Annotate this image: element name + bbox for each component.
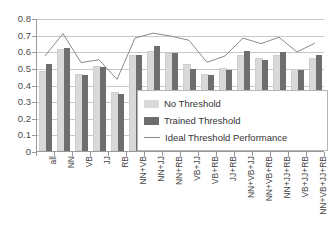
x-axis-tick-mark bbox=[36, 152, 37, 156]
x-axis-tick-label: JJ+RB bbox=[229, 156, 238, 181]
legend-item: No Threshold bbox=[144, 95, 321, 112]
x-axis-tick-label: NN+JJ+RB bbox=[283, 156, 292, 199]
legend-swatch-icon bbox=[144, 100, 159, 108]
legend-item: Trained Threshold bbox=[144, 112, 321, 129]
y-axis-tick-label: 0.6 bbox=[2, 47, 31, 57]
ideal-threshold-polyline bbox=[45, 33, 315, 79]
legend-item-label: No Threshold bbox=[164, 99, 221, 109]
x-axis-tick-label: NN bbox=[67, 156, 76, 168]
x-axis-tick-label: VB bbox=[85, 156, 94, 167]
x-axis-tick-label: NN+JJ bbox=[157, 156, 166, 182]
legend-swatch-icon bbox=[144, 117, 159, 125]
legend: No ThresholdTrained ThresholdIdeal Thres… bbox=[137, 90, 328, 151]
x-axis-tick-label: NN+VB+RB bbox=[265, 156, 274, 201]
x-axis-tick-label: NN+VB+JJ bbox=[247, 156, 256, 198]
y-axis-tick-label: 0.1 bbox=[2, 130, 31, 140]
x-axis-tick-label: NN+VB bbox=[139, 156, 148, 185]
y-axis-tick-label: 0.4 bbox=[2, 81, 31, 91]
x-axis-tick-label: all bbox=[49, 156, 58, 165]
x-axis-tick-label: NN+RB bbox=[175, 156, 184, 185]
y-axis-tick-label: 0 bbox=[2, 147, 31, 157]
x-axis-tick-label: JJ bbox=[103, 156, 112, 165]
legend-swatch-icon bbox=[144, 137, 160, 138]
y-axis-tick-label: 0.8 bbox=[2, 14, 31, 24]
legend-item: Ideal Threshold Performance bbox=[144, 129, 321, 146]
y-axis-tick-label: 0.7 bbox=[2, 31, 31, 41]
x-axis-tick-label: RB bbox=[121, 156, 130, 168]
y-axis-tick-label: 0.3 bbox=[2, 97, 31, 107]
x-axis-tick-label: NN+VB+JJ+RB bbox=[319, 156, 328, 215]
y-axis-tick-label: 0.5 bbox=[2, 64, 31, 74]
y-axis-tick-label: 0.2 bbox=[2, 114, 31, 124]
x-axis-tick-label: VB+JJ+RB bbox=[301, 156, 310, 198]
x-axis-tick-label: VB+JJ bbox=[193, 156, 202, 181]
legend-item-label: Ideal Threshold Performance bbox=[165, 133, 287, 143]
bar-chart: 00.10.20.30.40.50.60.70.8 allNNVBJJRBNN+… bbox=[0, 0, 333, 232]
x-axis-tick-label: VB+RB bbox=[211, 156, 220, 184]
legend-item-label: Trained Threshold bbox=[164, 116, 241, 126]
